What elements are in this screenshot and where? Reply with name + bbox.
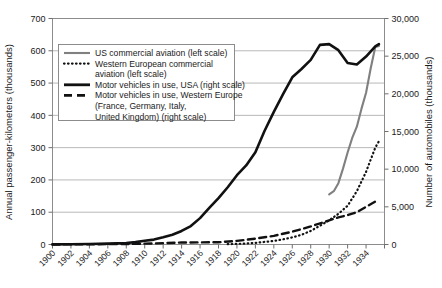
legend-label-3: Motor vehicles in use, USA (right scale) <box>95 80 245 90</box>
left-axis-tick-label: 600 <box>30 46 45 56</box>
left-axis-tick-label: 0 <box>40 240 45 250</box>
left-axis-tick-label: 500 <box>30 78 45 88</box>
right-axis-tick-label: 25,000 <box>392 51 420 61</box>
chart-legend: US commercial aviation (left scale)Weste… <box>59 45 246 122</box>
legend-label-6: United Kingdom) (right scale) <box>95 112 206 122</box>
right-axis-tick-label: 5,000 <box>392 202 415 212</box>
right-axis-tick-label: 20,000 <box>392 89 420 99</box>
left-axis-tick-label: 300 <box>30 143 45 153</box>
legend-label-0: US commercial aviation (left scale) <box>95 48 227 58</box>
right-axis-title: Number of automobiles (thousands) <box>423 56 434 207</box>
dual-axis-line-chart: 0100200300400500600700 05,00010,00015,00… <box>0 0 442 288</box>
legend-label-2: aviation (left scale) <box>95 69 167 79</box>
legend-label-1: Western European commercial <box>95 59 213 69</box>
right-axis-tick-label: 15,000 <box>392 127 420 137</box>
left-axis-tick-label: 700 <box>30 14 45 24</box>
left-axis-tick-label: 100 <box>30 207 45 217</box>
right-axis-tick-label: 10,000 <box>392 164 420 174</box>
left-axis-tick-label: 400 <box>30 111 45 121</box>
right-axis-tick-label: 0 <box>392 240 397 250</box>
chart-container: 0100200300400500600700 05,00010,00015,00… <box>0 0 442 288</box>
left-axis-tick-label: 200 <box>30 175 45 185</box>
legend-label-5: (France, Germany, Italy, <box>95 101 186 111</box>
legend-label-4: Motor vehicles in use, Western Europe <box>95 90 243 100</box>
right-axis-tick-label: 30,000 <box>392 14 420 24</box>
left-axis-title: Annual passenger-kilometers (thousands) <box>3 44 14 220</box>
